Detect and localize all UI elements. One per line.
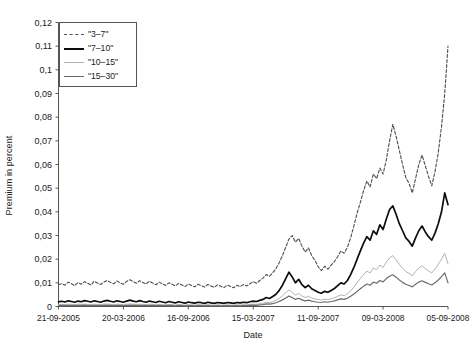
x-tick-label: 05-09-2008: [415, 313, 474, 323]
x-tick-label: 16-09-2006: [155, 313, 221, 323]
legend-label-15-30: "15–30": [88, 71, 118, 81]
legend-item-7-10: "7–10": [64, 41, 133, 55]
chart-legend: "3–7" "7–10" "10–15" "15–30": [59, 22, 137, 87]
y-tick-label: 0,07: [14, 136, 52, 146]
y-tick-label: 0: [14, 302, 52, 312]
legend-item-10-15: "10–15": [64, 55, 133, 69]
y-tick-label: 0,01: [14, 278, 52, 288]
x-axis-label: Date: [58, 329, 448, 341]
legend-swatch-solid-gray-icon: [64, 71, 84, 81]
y-tick-label: 0,02: [14, 254, 52, 264]
y-axis-label: Premium in percent: [0, 0, 18, 351]
y-tick-label: 0,06: [14, 160, 52, 170]
legend-swatch-solid-lightgray-icon: [64, 57, 84, 67]
legend-swatch-dashed-icon: [64, 29, 84, 39]
legend-label-3-7: "3–7": [88, 29, 108, 39]
y-tick-label: 0,11: [14, 41, 52, 51]
legend-item-3-7: "3–7": [64, 27, 133, 41]
series-line: [59, 253, 449, 305]
x-tick-label: 20-03-2006: [90, 313, 156, 323]
y-tick-label: 0,03: [14, 231, 52, 241]
legend-item-15-30: "15–30": [64, 69, 133, 83]
series-line: [59, 193, 449, 304]
y-tick-label: 0,09: [14, 89, 52, 99]
x-tick-label: 15-03-2007: [220, 313, 286, 323]
x-tick-label: 21-09-2005: [26, 313, 92, 323]
legend-label-10-15: "10–15": [88, 57, 118, 67]
y-tick-label: 0,1: [14, 65, 52, 75]
y-tick-label: 0,04: [14, 207, 52, 217]
legend-swatch-solid-black-icon: [64, 43, 84, 53]
y-tick-label: 0,12: [14, 18, 52, 28]
y-tick-label: 0,05: [14, 183, 52, 193]
x-tick-label: 09-03-2008: [350, 313, 416, 323]
y-tick-label: 0,08: [14, 112, 52, 122]
legend-label-7-10: "7–10": [88, 43, 113, 53]
x-tick-label: 11-09-2007: [285, 313, 351, 323]
